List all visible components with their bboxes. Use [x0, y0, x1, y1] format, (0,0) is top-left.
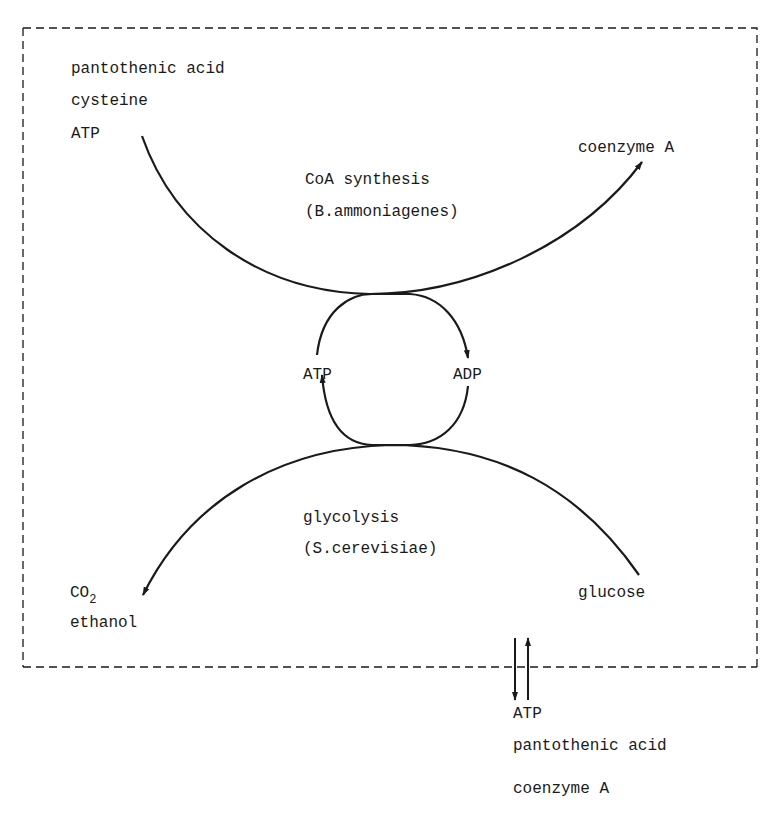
output-co2: CO2	[70, 584, 96, 603]
output-coenzyme-a: coenzyme A	[578, 139, 674, 157]
upper-process-name: CoA synthesis	[305, 171, 430, 189]
co2-subscript: 2	[89, 593, 96, 607]
input-atp: ATP	[71, 125, 100, 143]
cycle-atp-label: ATP	[303, 366, 332, 384]
upper-process-organism: (B.ammoniagenes)	[305, 203, 459, 221]
dashed-boundary	[23, 28, 757, 667]
cycle-adp-label: ADP	[453, 366, 482, 384]
output-ethanol: ethanol	[70, 614, 137, 632]
adp-to-atp-arc	[322, 375, 468, 445]
input-cysteine: cysteine	[71, 92, 148, 110]
coa-synthesis-diagram: pantothenic acid cysteine ATP coenzyme A…	[0, 0, 782, 815]
lower-process-name: glycolysis	[303, 509, 399, 527]
external-pantothenic-acid: pantothenic acid	[513, 737, 667, 755]
lower-process-organism: (S.cerevisiae)	[303, 540, 437, 558]
external-coenzyme-a: coenzyme A	[513, 780, 609, 798]
input-glucose: glucose	[578, 584, 645, 602]
input-pantothenic-acid: pantothenic acid	[71, 60, 225, 78]
external-atp: ATP	[513, 705, 542, 723]
co2-main: CO	[70, 584, 89, 602]
diagram-graphics	[0, 0, 782, 815]
atp-to-adp-arc	[317, 294, 468, 358]
